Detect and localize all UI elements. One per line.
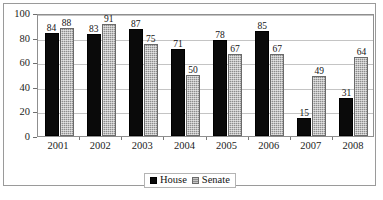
bar-senate-2008[interactable]	[354, 57, 368, 136]
y-axis-tick-label: 100	[4, 9, 30, 20]
plot-area: 84888391877571507867856715493164	[37, 14, 374, 137]
legend-label: Senate	[202, 175, 230, 186]
bar-value-label: 75	[141, 35, 161, 45]
bar-value-label: 85	[252, 22, 272, 32]
bar-house-2005[interactable]	[213, 40, 227, 136]
bar-value-label: 83	[84, 25, 104, 35]
y-axis-tick-label: 40	[4, 83, 30, 94]
y-axis-tick-label: 0	[4, 132, 30, 143]
bar-senate-2006[interactable]	[270, 54, 284, 136]
bar-senate-2004[interactable]	[186, 75, 200, 137]
bar-house-2002[interactable]	[87, 34, 101, 136]
x-axis-tick-label-2003: 2003	[122, 140, 162, 151]
legend-item-house[interactable]: House	[150, 175, 187, 186]
bar-value-label: 50	[183, 66, 203, 76]
bar-value-label: 64	[351, 48, 371, 58]
x-axis-tick-mark	[248, 137, 249, 140]
x-axis-tick-label-2004: 2004	[164, 140, 204, 151]
legend-swatch-icon	[150, 177, 157, 184]
bar-house-2008[interactable]	[339, 98, 353, 136]
bar-senate-2002[interactable]	[102, 24, 116, 136]
x-axis-tick-label-2008: 2008	[333, 140, 373, 151]
bar-value-label: 87	[126, 20, 146, 30]
bar-value-label: 49	[309, 67, 329, 77]
bar-house-2001[interactable]	[45, 33, 59, 136]
chart-legend: HouseSenate	[144, 173, 236, 188]
bar-house-2007[interactable]	[297, 118, 311, 136]
bar-house-2003[interactable]	[129, 29, 143, 136]
bar-value-label: 15	[294, 109, 314, 119]
bar-senate-2007[interactable]	[312, 76, 326, 136]
gridline	[38, 15, 373, 16]
y-axis-tick-label: 80	[4, 34, 30, 45]
x-axis: 20012002200320042005200620072008	[37, 140, 374, 156]
x-axis-tick-mark	[290, 137, 291, 140]
x-axis-tick-label-2005: 2005	[207, 140, 247, 151]
x-axis-tick-label-2006: 2006	[249, 140, 289, 151]
legend-item-senate[interactable]: Senate	[192, 175, 230, 186]
bar-value-label: 67	[267, 45, 287, 55]
bar-value-label: 71	[168, 40, 188, 50]
bar-senate-2005[interactable]	[228, 54, 242, 136]
bar-house-2004[interactable]	[171, 49, 185, 136]
y-axis-tick-label: 20	[4, 107, 30, 118]
bar-value-label: 91	[99, 15, 119, 25]
bar-senate-2001[interactable]	[60, 28, 74, 136]
bar-value-label: 31	[336, 89, 356, 99]
legend-label: House	[160, 175, 187, 186]
legend-swatch-icon	[192, 177, 199, 184]
bar-value-label: 78	[210, 31, 230, 41]
x-axis-tick-mark	[121, 137, 122, 140]
x-axis-tick-mark	[206, 137, 207, 140]
x-axis-tick-label-2001: 2001	[38, 140, 78, 151]
x-axis-tick-mark	[332, 137, 333, 140]
y-axis-tick-label: 60	[4, 58, 30, 69]
x-axis-tick-label-2007: 2007	[291, 140, 331, 151]
chart-frame: 020406080100 848883918775715078678567154…	[3, 3, 376, 186]
y-axis-tick-mark	[33, 137, 37, 138]
clipped-caption-text	[4, 190, 379, 198]
bar-senate-2003[interactable]	[144, 44, 158, 136]
bar-value-label: 88	[57, 19, 77, 29]
x-axis-tick-label-2002: 2002	[80, 140, 120, 151]
bar-value-label: 67	[225, 45, 245, 55]
x-axis-tick-mark	[79, 137, 80, 140]
x-axis-tick-mark	[163, 137, 164, 140]
clipped-caption	[4, 190, 379, 199]
